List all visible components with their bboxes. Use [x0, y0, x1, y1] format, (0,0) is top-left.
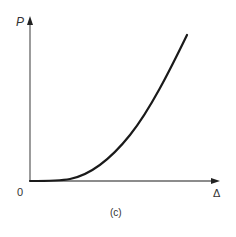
figure-caption: (c) [110, 208, 122, 218]
y-axis-arrow-icon [27, 16, 33, 25]
x-axis-arrow-icon [211, 178, 220, 184]
chart-canvas [0, 0, 236, 237]
y-axis-label: P [16, 16, 24, 28]
origin-label: 0 [17, 187, 23, 198]
x-axis-label: Δ [213, 188, 220, 199]
load-displacement-curve [30, 35, 187, 181]
